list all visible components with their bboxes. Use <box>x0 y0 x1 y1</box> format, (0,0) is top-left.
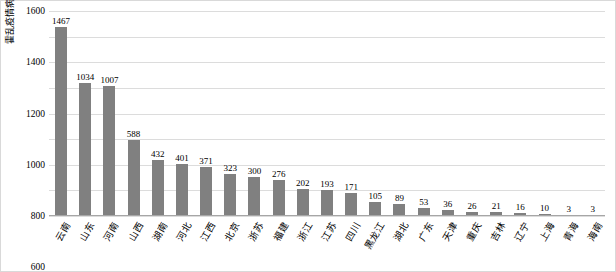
bar-rect <box>176 164 188 215</box>
x-tick-label: 广东 <box>414 219 436 243</box>
x-tick-slot: 吉林 <box>484 217 508 271</box>
x-tick-label: 北京 <box>220 219 242 243</box>
bar-value-label: 401 <box>175 153 189 163</box>
bar-item: 89 <box>387 11 411 215</box>
bar-item: 26 <box>460 11 484 215</box>
bar-value-label: 276 <box>272 169 286 179</box>
bar-value-label: 171 <box>344 182 358 192</box>
bar-item: 105 <box>363 11 387 215</box>
x-tick-slot: 福建 <box>267 217 291 271</box>
bar-item: 53 <box>412 11 436 215</box>
bar-item: 323 <box>218 11 242 215</box>
x-tick-label: 黑龙江 <box>360 219 387 252</box>
bar-value-label: 3 <box>566 204 571 214</box>
bar-item: 300 <box>242 11 266 215</box>
bar-item: 276 <box>267 11 291 215</box>
bar-item: 21 <box>484 11 508 215</box>
bar-rect <box>273 180 285 215</box>
x-tick-slot: 海南 <box>581 217 605 271</box>
y-tick-label: 1600 <box>26 6 45 16</box>
bar-item: 1007 <box>97 11 121 215</box>
bar-rect <box>248 177 260 215</box>
bar-value-label: 193 <box>320 179 334 189</box>
x-tick-label: 浙苏 <box>244 219 266 243</box>
bar-rect <box>55 27 67 215</box>
bar-rect <box>369 202 381 215</box>
x-tick-label: 云南 <box>51 219 73 243</box>
bar-item: 202 <box>291 11 315 215</box>
bar-item: 432 <box>146 11 170 215</box>
x-tick-slot: 山西 <box>122 217 146 271</box>
x-tick-label: 重庆 <box>462 219 484 243</box>
bar-value-label: 3 <box>591 204 596 214</box>
x-tick-slot: 北京 <box>218 217 242 271</box>
y-tick-label: 1400 <box>26 57 45 67</box>
bar-rect <box>224 174 236 215</box>
bar-value-label: 10 <box>540 203 549 213</box>
x-tick-slot: 湖北 <box>387 217 411 271</box>
plot-area: 02004006008001000120014001600 1467103410… <box>49 11 605 216</box>
bar-rect <box>321 190 333 215</box>
x-tick-slot: 广东 <box>412 217 436 271</box>
bar-item: 1467 <box>49 11 73 215</box>
bar-rect <box>200 167 212 215</box>
bar-item: 16 <box>508 11 532 215</box>
x-tick-slot: 湖南 <box>146 217 170 271</box>
x-tick-slot: 黑龙江 <box>363 217 387 271</box>
bar-value-label: 36 <box>443 199 452 209</box>
bar-value-label: 105 <box>369 191 383 201</box>
bar-value-label: 16 <box>516 202 525 212</box>
x-tick-slot: 浙江 <box>291 217 315 271</box>
y-tick-label: 800 <box>31 211 45 221</box>
bar-item: 588 <box>122 11 146 215</box>
x-tick-slot: 浙苏 <box>242 217 266 271</box>
bar-value-label: 432 <box>151 149 165 159</box>
x-tick-label: 山东 <box>75 219 97 243</box>
x-tick-label: 湖北 <box>389 219 411 243</box>
bar-item: 171 <box>339 11 363 215</box>
bar-value-label: 1007 <box>100 75 118 85</box>
bar-chart: 霍乱疫情病例数（例） 02004006008001000120014001600… <box>0 0 616 272</box>
bar-value-label: 89 <box>395 193 404 203</box>
x-tick-label: 青海 <box>559 219 581 243</box>
x-tick-slot: 江西 <box>194 217 218 271</box>
x-tick-label: 江西 <box>196 219 218 243</box>
bar-item: 3 <box>557 11 581 215</box>
bar-rect <box>79 83 91 215</box>
bar-rect <box>345 193 357 215</box>
y-tick-label: 600 <box>31 262 45 272</box>
x-tick-label: 江苏 <box>317 219 339 243</box>
x-tick-slot: 辽宁 <box>508 217 532 271</box>
y-tick-label: 1000 <box>26 160 45 170</box>
x-tick-slot: 青海 <box>557 217 581 271</box>
x-tick-slot: 上海 <box>532 217 556 271</box>
x-tick-slot: 天津 <box>436 217 460 271</box>
x-tick-label: 浙江 <box>293 219 315 243</box>
bar-value-label: 323 <box>224 163 238 173</box>
x-tick-label: 天津 <box>438 219 460 243</box>
bar-rect <box>297 189 309 215</box>
x-tick-label: 河南 <box>99 219 121 243</box>
bar-item: 36 <box>436 11 460 215</box>
x-tick-slot: 江苏 <box>315 217 339 271</box>
x-axis-tick-labels: 云南山东河南山西湖南河北江西北京浙苏福建浙江江苏四川黑龙江湖北广东天津重庆吉林辽… <box>49 217 605 271</box>
x-tick-slot: 云南 <box>49 217 73 271</box>
x-tick-label: 辽宁 <box>510 219 532 243</box>
bar-value-label: 202 <box>296 178 310 188</box>
x-tick-label: 山西 <box>124 219 146 243</box>
bar-value-label: 53 <box>419 197 428 207</box>
bar-value-label: 1034 <box>76 72 94 82</box>
x-tick-label: 福建 <box>269 219 291 243</box>
y-axis-title: 霍乱疫情病例数（例） <box>3 0 16 59</box>
x-tick-slot: 重庆 <box>460 217 484 271</box>
bar-rect <box>152 160 164 215</box>
bar-item: 3 <box>581 11 605 215</box>
bar-rect <box>103 86 115 215</box>
x-tick-label: 湖南 <box>148 219 170 243</box>
x-tick-label: 四川 <box>341 219 363 243</box>
x-tick-slot: 河南 <box>97 217 121 271</box>
bar-item: 10 <box>532 11 556 215</box>
bar-value-label: 26 <box>468 201 477 211</box>
bar-value-label: 21 <box>492 201 501 211</box>
bar-value-label: 588 <box>127 129 141 139</box>
